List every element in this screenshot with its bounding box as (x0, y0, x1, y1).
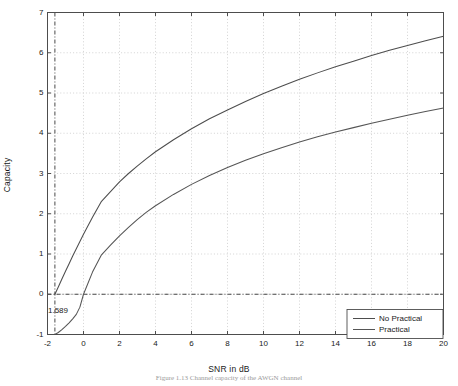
y-axis-label: Capacity (2, 145, 12, 205)
x-tick-label: 20 (432, 339, 456, 348)
y-tick-label: 7 (28, 8, 44, 17)
y-tick-label: 5 (28, 88, 44, 97)
x-tick-label: 16 (360, 339, 384, 348)
legend-entry-label: Practical (379, 325, 410, 334)
y-tick-label: 1 (28, 249, 44, 258)
x-tick-label: 4 (144, 339, 168, 348)
x-tick-label: 8 (216, 339, 240, 348)
x-tick-label: 2 (108, 339, 132, 348)
y-tick-label: 3 (28, 169, 44, 178)
x-tick-label: 18 (396, 339, 420, 348)
x-tick-label: 0 (72, 339, 96, 348)
y-tick-label: 6 (28, 48, 44, 57)
x-tick-label: 10 (252, 339, 276, 348)
legend-entry-label: No Practical (379, 314, 422, 323)
x-tick-label: 12 (288, 339, 312, 348)
x-tick-label: -2 (36, 339, 60, 348)
y-tick-label: 0 (28, 289, 44, 298)
y-tick-label: 2 (28, 209, 44, 218)
y-tick-label: -1 (28, 330, 44, 339)
x-axis-label: SNR in dB (0, 364, 458, 374)
x-tick-label: 6 (180, 339, 204, 348)
y-tick-label: 4 (28, 128, 44, 137)
x-tick-label: 14 (324, 339, 348, 348)
figure-caption: Figure 1.13 Channel capacity of the AWGN… (0, 374, 458, 382)
figure-container: SNR in dB Capacity 1.589 Figure 1.13 Cha… (0, 0, 458, 386)
shannon-limit-annotation: 1.589 (48, 306, 68, 315)
